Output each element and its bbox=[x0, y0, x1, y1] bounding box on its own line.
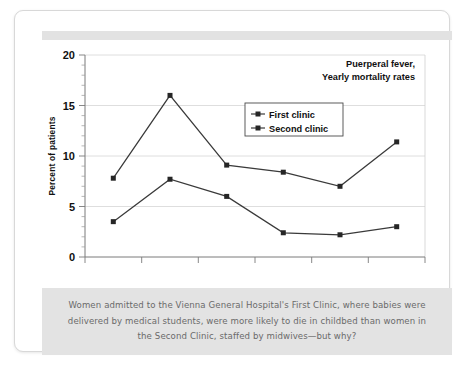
data-point-first-1843 bbox=[224, 163, 229, 168]
legend-label-first-clinic: First clinic bbox=[269, 110, 315, 120]
x-tick-label-1844: 1844 bbox=[271, 267, 296, 269]
x-tick-label-1846: 1846 bbox=[384, 267, 408, 269]
data-point-second-1846 bbox=[394, 224, 399, 229]
y-tick-label-0: 0 bbox=[69, 251, 75, 263]
caption-text: Women admitted to the Vienna General Hos… bbox=[62, 298, 432, 345]
x-axis-ticks bbox=[85, 257, 425, 263]
data-point-second-1844 bbox=[281, 230, 286, 235]
y-axis-label: Percent of patients bbox=[47, 116, 57, 195]
y-tick-label-10: 10 bbox=[63, 150, 75, 162]
data-point-first-1846 bbox=[394, 139, 399, 144]
decorative-top-band bbox=[42, 31, 452, 40]
data-point-first-1844 bbox=[281, 170, 286, 175]
data-point-second-1843 bbox=[224, 194, 229, 199]
data-point-first-1841 bbox=[111, 176, 116, 181]
figure-card: 20 15 10 5 0 Percent of patients 1841 18… bbox=[14, 10, 450, 352]
chart-title-line-2: Yearly mortality rates bbox=[322, 72, 415, 82]
chart-legend: First clinic Second clinic bbox=[245, 103, 343, 136]
y-tick-label-5: 5 bbox=[69, 201, 75, 213]
data-point-first-1845 bbox=[338, 184, 343, 189]
caption-bar: Women admitted to the Vienna General Hos… bbox=[42, 288, 452, 355]
chart-title-line-1: Puerperal fever, bbox=[346, 59, 415, 69]
x-tick-label-1843: 1843 bbox=[214, 267, 238, 269]
line-chart: 20 15 10 5 0 Percent of patients 1841 18… bbox=[33, 41, 461, 269]
data-point-second-1842 bbox=[168, 177, 173, 182]
legend-marker-first-clinic bbox=[256, 112, 261, 117]
chart-area: 20 15 10 5 0 Percent of patients 1841 18… bbox=[33, 41, 461, 269]
data-point-first-1842 bbox=[168, 93, 173, 98]
x-tick-label-1845: 1845 bbox=[328, 267, 352, 269]
y-tick-label-15: 15 bbox=[63, 100, 75, 112]
x-tick-label-1842: 1842 bbox=[158, 267, 182, 269]
legend-label-second-clinic: Second clinic bbox=[269, 124, 328, 134]
data-point-second-1841 bbox=[111, 219, 116, 224]
data-point-second-1845 bbox=[338, 232, 343, 237]
x-tick-label-1841: 1841 bbox=[101, 267, 125, 269]
legend-marker-second-clinic bbox=[256, 126, 261, 131]
y-tick-label-20: 20 bbox=[63, 49, 75, 61]
